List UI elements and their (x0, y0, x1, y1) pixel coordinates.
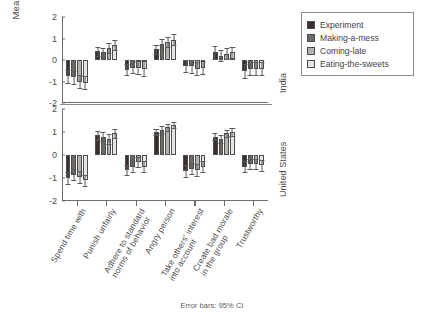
legend-item[interactable]: Experiment (307, 18, 409, 31)
error-bar-cap (71, 169, 76, 170)
bar[interactable] (171, 125, 176, 155)
legend-label: Eating-the-sweets (320, 59, 389, 69)
error-bar (126, 165, 127, 175)
error-bar-cap (66, 172, 71, 173)
bar-group (180, 17, 209, 103)
bar-group (62, 109, 91, 201)
error-bar (132, 161, 133, 171)
chart-figure: Mean response 210-1-2 210-1-2 Spend time… (0, 0, 424, 320)
legend-item[interactable]: Eating-the-sweets (307, 57, 409, 70)
error-bar-cap (218, 143, 223, 144)
error-bar (138, 157, 139, 167)
error-bar-cap (95, 56, 100, 57)
error-bar (114, 40, 115, 50)
error-bar (103, 132, 104, 140)
error-bar (232, 128, 233, 135)
error-bar-cap (66, 83, 71, 84)
bar-group (91, 109, 120, 201)
bar-group (209, 17, 238, 103)
y-axis-tick-label: -1 (49, 173, 62, 183)
error-bar-cap (171, 34, 176, 35)
error-bar-cap (136, 61, 141, 62)
error-bar-cap (195, 75, 200, 76)
error-bar-cap (230, 128, 235, 129)
error-bar-cap (95, 140, 100, 141)
bar-group (209, 109, 238, 201)
error-bar (68, 172, 69, 183)
error-bar-cap (189, 163, 194, 164)
bar-group-bars (95, 109, 118, 201)
error-bar-cap (242, 78, 247, 79)
bar-slot (230, 17, 236, 103)
error-bar (215, 46, 216, 58)
error-bar-cap (106, 134, 111, 135)
error-bar-cap (189, 60, 194, 61)
error-bar-cap (160, 126, 165, 127)
error-bar (203, 161, 204, 172)
error-bar (250, 62, 251, 75)
error-bar-cap (71, 180, 76, 181)
error-bar-cap (165, 47, 170, 48)
legend-swatch-experiment (307, 21, 315, 29)
y-axis-tick-label: 1 (52, 127, 62, 137)
error-bar (126, 64, 127, 76)
error-bar (185, 165, 186, 177)
error-bar-cap (77, 183, 82, 184)
error-bar-cap (136, 74, 141, 75)
error-bar (203, 61, 204, 74)
error-bar-cap (224, 137, 229, 138)
y-axis-tick-label: 0 (52, 55, 62, 65)
bar-group-bars (154, 17, 177, 103)
error-bar-cap (142, 161, 147, 162)
error-bar-cap (213, 59, 218, 60)
bar-group-bars (65, 109, 88, 201)
error-bar-cap (230, 58, 235, 59)
bar-group (180, 109, 209, 201)
legend-item[interactable]: Coming-late (307, 44, 409, 57)
error-bar (97, 131, 98, 140)
bar-group (121, 17, 150, 103)
error-bar-cap (142, 76, 147, 77)
error-bar-cap (218, 61, 223, 62)
error-bar-cap (130, 62, 135, 63)
error-bar (226, 48, 227, 59)
bar-group-bars (183, 17, 206, 103)
bar-slot (200, 109, 206, 201)
error-bar (197, 62, 198, 75)
error-bar-cap (183, 60, 188, 61)
bar-group (91, 17, 120, 103)
error-bar-cap (124, 64, 129, 65)
error-bar (114, 129, 115, 138)
error-bar-cap (254, 75, 259, 76)
error-bar (191, 60, 192, 73)
error-bar-cap (154, 135, 159, 136)
error-bar-cap (259, 62, 264, 63)
error-bar (73, 169, 74, 181)
error-bar (132, 62, 133, 74)
bar-group (239, 17, 268, 103)
error-bar-cap (200, 172, 205, 173)
error-bar-cap (254, 159, 259, 160)
error-bar-cap (189, 174, 194, 175)
error-bar-cap (130, 73, 135, 74)
error-bar-cap (83, 186, 88, 187)
panel-india: 210-1-2 (62, 17, 268, 103)
error-bar-cap (83, 175, 88, 176)
error-bar-cap (248, 159, 253, 160)
bar-group-bars (65, 17, 88, 103)
error-bar (261, 62, 262, 76)
error-bar-cap (230, 136, 235, 137)
error-bar-cap (101, 132, 106, 133)
x-axis-tick (224, 201, 225, 206)
bar-slot (112, 109, 118, 201)
error-bar (244, 64, 245, 78)
panel-india-groups (62, 17, 268, 103)
error-bar-cap (106, 144, 111, 145)
error-bar (97, 47, 98, 56)
bar-slot (259, 17, 265, 103)
legend-item[interactable]: Making-a-mess (307, 31, 409, 44)
error-bar-cap (124, 175, 129, 176)
bar-group-bars (242, 17, 265, 103)
bar[interactable] (165, 127, 170, 155)
bar-group (150, 109, 179, 201)
